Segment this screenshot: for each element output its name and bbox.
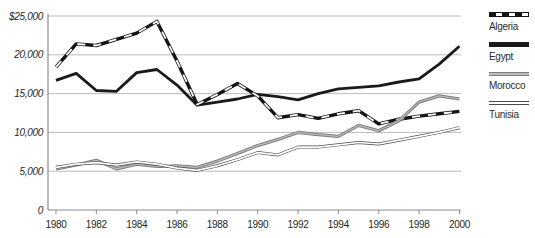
x-tick-label-1996: 1996 [368,219,390,230]
x-tick-label-1990: 1990 [247,219,269,230]
series-line-algeria [56,21,459,124]
x-tick-label-2000: 2000 [449,219,471,230]
legend-item-morocco: Morocco [489,72,535,91]
y-tick-label-15000: 15,000 [14,88,44,99]
legend-item-egypt: Egypt [489,42,535,62]
x-tick-label-1982: 1982 [86,219,108,230]
line-chart-svg: 1980198219841986198819901992199419961998… [0,0,535,238]
egypt-line-swatch [489,42,529,47]
x-tick-label-1994: 1994 [328,219,350,230]
y-tick-label-20000: 20,000 [13,49,44,60]
legend-label-algeria: Algeria [489,21,535,32]
line-chart: 1980198219841986198819901992199419961998… [0,0,535,238]
x-tick-label-1998: 1998 [409,219,431,230]
y-tick-label-25000: $25,000 [8,11,44,22]
legend-item-tunisia: Tunisia [489,101,535,120]
series-line-tunisia [56,128,459,171]
x-tick-label-1986: 1986 [166,219,188,230]
algeria-line-swatch [489,12,529,17]
x-tick-label-1992: 1992 [288,219,310,230]
legend-label-egypt: Egypt [489,51,535,62]
y-tick-label-5000: 5,000 [19,166,43,177]
y-tick-label-0: 0 [38,205,44,216]
legend-label-tunisia: Tunisia [489,109,535,120]
x-tick-label-1988: 1988 [207,219,229,230]
x-tick-label-1980: 1980 [45,219,67,230]
chart-legend: Algeria Egypt Morocco Tunisia [489,12,535,130]
legend-label-morocco: Morocco [489,80,535,91]
series-line-algeria-core [56,21,459,124]
x-tick-label-1984: 1984 [126,219,148,230]
morocco-line-swatch [489,72,529,76]
legend-item-algeria: Algeria [489,12,535,32]
tunisia-line-swatch [489,101,529,105]
y-tick-label-10000: 10,000 [14,127,44,138]
